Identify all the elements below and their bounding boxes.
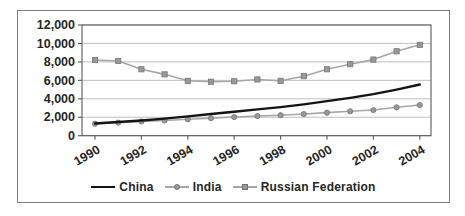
x-tick-label: 1990 (71, 142, 102, 168)
x-tick-label: 2002 (350, 142, 381, 168)
marker-circle (324, 110, 329, 115)
china-line-sample-icon (91, 183, 115, 191)
marker-square (417, 42, 422, 47)
marker-square (255, 77, 260, 82)
legend-item-india: India (165, 180, 222, 194)
marker-circle (208, 116, 213, 121)
marker-square (162, 72, 167, 77)
marker-square (348, 62, 353, 67)
y-tick-label: 12,000 (37, 18, 75, 32)
marker-circle (301, 111, 306, 116)
marker-square (208, 79, 213, 84)
marker-square (371, 57, 376, 62)
marker-circle (255, 113, 260, 118)
marker-square (116, 58, 121, 63)
legend-item-russia: Russian Federation (233, 180, 376, 194)
x-tick-label: 2000 (303, 142, 334, 168)
marker-circle (394, 105, 399, 110)
y-tick-label: 8,000 (44, 55, 75, 69)
screenshot-root: { "frame": { "background": "#ffffff", "b… (0, 0, 465, 216)
series-line-russian-federation (95, 45, 420, 82)
marker-circle (278, 113, 283, 118)
marker-circle (417, 102, 422, 107)
legend: China India Russian Federation (17, 179, 450, 195)
y-tick-label: 6,000 (44, 74, 75, 88)
marker-square (301, 74, 306, 79)
marker-circle (232, 114, 237, 119)
x-tick-label: 1994 (164, 142, 195, 168)
legend-label-china: China (119, 180, 153, 194)
marker-square (394, 49, 399, 54)
marker-square (278, 78, 283, 83)
x-tick-label: 2004 (396, 142, 427, 168)
x-tick-label: 1998 (257, 142, 288, 168)
y-tick-label: 2,000 (44, 110, 75, 124)
legend-label-russia: Russian Federation (261, 180, 376, 194)
marker-square (185, 78, 190, 83)
india-marker-sample-icon (165, 183, 189, 191)
y-tick-label: 0 (68, 129, 75, 143)
legend-item-china: China (91, 180, 153, 194)
marker-square (324, 67, 329, 72)
russia-marker-sample-icon (233, 183, 257, 191)
marker-circle (371, 107, 376, 112)
marker-square (232, 79, 237, 84)
x-tick-label: 1996 (211, 142, 242, 168)
marker-circle (348, 109, 353, 114)
marker-square (92, 57, 97, 62)
y-tick-label: 4,000 (44, 92, 75, 106)
y-tick-label: 10,000 (37, 37, 75, 51)
legend-label-india: India (193, 180, 222, 194)
marker-square (139, 67, 144, 72)
x-tick-label: 1992 (118, 142, 149, 168)
